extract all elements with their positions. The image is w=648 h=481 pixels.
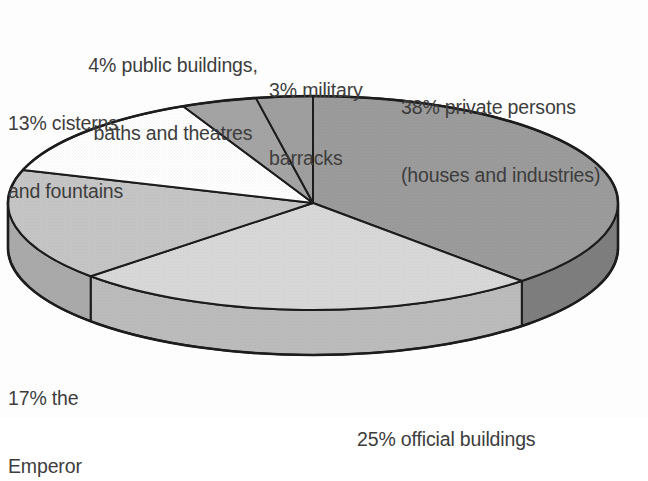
- slice-label-military-barracks: 3% military barracks: [269, 33, 399, 216]
- slice-label-cisterns-and-fountains: 13% cisterns and fountains: [8, 66, 208, 249]
- slice-label-private-persons-line1: 38% private persons: [401, 96, 645, 119]
- slice-label-military-barracks-line1: 3% military: [269, 79, 399, 102]
- slice-label-cisterns-line1: 13% cisterns: [8, 112, 208, 135]
- slice-label-emperor-line2: Emperor: [8, 455, 148, 478]
- slice-label-official-buildings: 25% official buildings: [357, 382, 637, 481]
- slice-label-private-persons: 38% private persons (houses and industri…: [401, 50, 645, 233]
- slice-label-cisterns-line2: and fountains: [8, 180, 208, 203]
- slice-label-military-barracks-line2: barracks: [269, 147, 399, 170]
- slice-label-emperor-line1: 17% the: [8, 387, 148, 410]
- slice-label-the-emperor: 17% the Emperor: [8, 341, 148, 481]
- slice-label-official-buildings-line1: 25% official buildings: [357, 428, 637, 451]
- slice-label-private-persons-line2: (houses and industries): [401, 164, 645, 187]
